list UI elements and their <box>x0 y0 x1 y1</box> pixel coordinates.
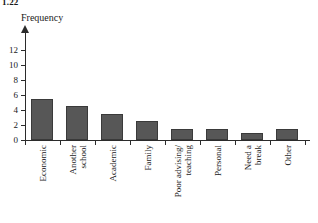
x-category-label-academic: Academic <box>108 145 120 219</box>
x-tick-mark <box>60 141 61 145</box>
y-axis-title: Frequency <box>21 12 63 23</box>
x-category-label-another-school: Another school <box>68 145 90 219</box>
x-category-label-other: Other <box>283 145 295 219</box>
x-tick-mark <box>165 141 166 145</box>
y-tick-mark <box>21 110 26 111</box>
x-axis-line <box>25 140 310 141</box>
x-category-label-personal: Personal <box>213 145 225 219</box>
bar-academic <box>101 114 123 140</box>
bar-personal <box>206 129 228 140</box>
bar-family <box>136 121 158 140</box>
x-category-label-poor-advising-teaching: Poor advising/ teaching <box>173 145 195 219</box>
y-tick-mark <box>21 65 26 66</box>
bar-chart: Frequency 0 2 4 6 8 10 12 Economic Anoth… <box>0 0 318 223</box>
y-tick-mark <box>21 125 26 126</box>
y-tick-label: 10 <box>2 61 18 70</box>
bar-other <box>276 129 298 140</box>
y-tick-label: 8 <box>2 76 18 85</box>
x-category-label-family: Family <box>143 145 155 219</box>
bar-economic <box>31 99 53 140</box>
y-tick-label: 6 <box>2 91 18 100</box>
x-tick-mark <box>200 141 201 145</box>
x-tick-mark <box>305 141 306 145</box>
y-tick-label: 12 <box>2 46 18 55</box>
x-tick-mark <box>95 141 96 145</box>
y-tick-label: 0 <box>2 136 18 145</box>
y-tick-label: 4 <box>2 106 18 115</box>
x-tick-mark <box>235 141 236 145</box>
y-tick-mark <box>21 80 26 81</box>
x-category-label-need-a-break: Need a break <box>243 145 265 219</box>
bar-another-school <box>66 106 88 140</box>
x-category-label-economic: Economic <box>38 145 50 219</box>
bar-poor-advising-teaching <box>171 129 193 140</box>
y-tick-mark <box>21 95 26 96</box>
x-tick-mark <box>270 141 271 145</box>
y-tick-label: 2 <box>2 121 18 130</box>
bar-need-a-break <box>241 133 263 141</box>
y-tick-mark <box>21 50 26 51</box>
x-tick-mark <box>25 141 26 145</box>
x-tick-mark <box>130 141 131 145</box>
